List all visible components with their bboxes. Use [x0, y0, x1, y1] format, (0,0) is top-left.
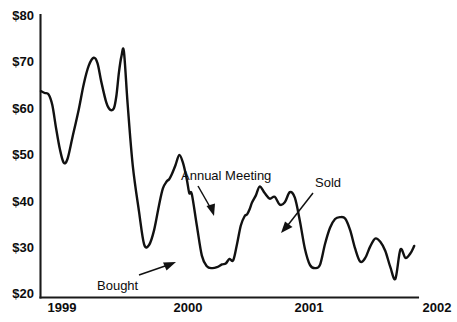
y-tick-label: $50 — [12, 147, 34, 162]
chart-background — [0, 0, 457, 322]
annotation-annual-meeting-label: Annual Meeting — [181, 168, 271, 183]
y-tick-label: $40 — [12, 194, 34, 209]
y-tick-label: $70 — [12, 54, 34, 69]
y-tick-label: $80 — [12, 8, 34, 23]
chart-canvas: $80 $70 $60 $50 $40 $30 $20 1999 2000 20… — [0, 0, 457, 322]
x-tick-label: 2002 — [423, 300, 452, 315]
y-tick-label: $60 — [12, 101, 34, 116]
x-tick-label: 2001 — [295, 300, 324, 315]
y-tick-label: $20 — [12, 286, 34, 301]
y-tick-label: $30 — [12, 240, 34, 255]
stock-price-chart: $80 $70 $60 $50 $40 $30 $20 1999 2000 20… — [0, 0, 457, 322]
x-tick-label: 1999 — [48, 300, 77, 315]
annotation-sold-label: Sold — [315, 175, 341, 190]
annotation-bought-label: Bought — [97, 278, 139, 293]
x-tick-label: 2000 — [174, 300, 203, 315]
